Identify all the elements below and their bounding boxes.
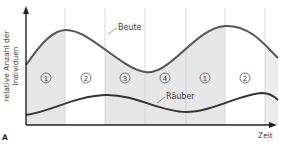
y-axis-label: Individuen — [11, 46, 20, 85]
y-axis-label: relative Anzahl der — [2, 30, 11, 102]
panel-label: A — [2, 133, 8, 142]
phase-label: 1 — [203, 75, 207, 83]
prey-leader-line — [108, 28, 117, 34]
phase-label: 2 — [84, 75, 88, 83]
phase-label: 1 — [44, 75, 48, 83]
predator-prey-diagram: 1 2 3 4 1 2 Beute Räuber relative Anzahl… — [0, 0, 281, 152]
prey-label: Beute — [118, 23, 142, 32]
phase-label: 3 — [123, 75, 127, 83]
x-axis-label: Zeit — [258, 131, 273, 140]
predator-label: Räuber — [166, 92, 195, 101]
phase-label: 4 — [163, 75, 168, 83]
y-axis-arrow-icon — [23, 6, 29, 14]
phase-label: 2 — [243, 75, 247, 83]
